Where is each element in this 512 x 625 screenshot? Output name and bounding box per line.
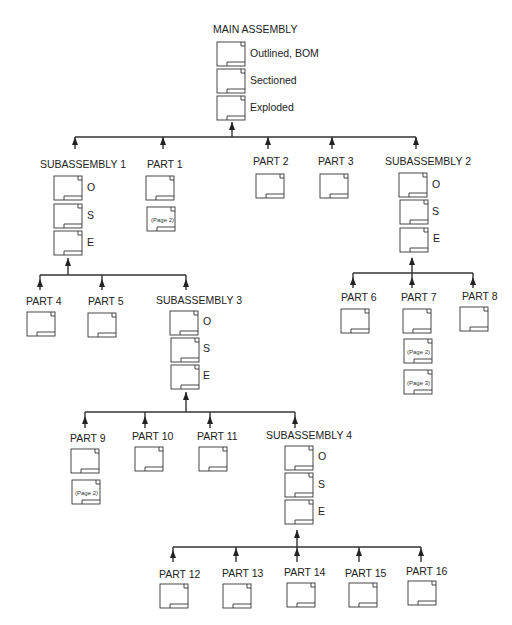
sheet-icon <box>171 365 199 389</box>
part-4-node: PART 4 <box>26 295 62 336</box>
view-s-label: S <box>87 209 94 221</box>
page-2-label: (Page 2) <box>151 217 174 223</box>
arrow-up-icon <box>329 137 335 145</box>
part-10-label: PART 10 <box>132 430 174 442</box>
part-14-label: PART 14 <box>284 566 326 578</box>
view-e-label: E <box>433 232 440 244</box>
arrow-up-icon <box>265 137 271 145</box>
part-10-node: PART 10 <box>132 430 174 471</box>
part-2-label: PART 2 <box>253 155 289 167</box>
part-8-node: PART 8 <box>460 290 498 331</box>
sheet-icon <box>171 338 199 362</box>
sheet-icon <box>341 309 369 333</box>
part-6-node: PART 6 <box>341 291 377 333</box>
part-16-label: PART 16 <box>406 565 448 577</box>
part-13-label: PART 13 <box>222 567 264 579</box>
view-e-label: E <box>318 505 325 517</box>
sheet-icon <box>460 307 488 331</box>
sheet-icon <box>170 311 198 335</box>
view-o-label: O <box>318 450 326 462</box>
part-12-label: PART 12 <box>159 568 201 580</box>
arrow-up-icon <box>160 137 166 145</box>
subassembly-4-node: SUBASSEMBLY 4 O S E <box>266 429 352 524</box>
subassembly-3-label: SUBASSEMBLY 3 <box>156 294 242 306</box>
drawing-tree-diagram: MAIN ASSEMBLY Outlined, BOM Sectioned Ex… <box>0 0 512 625</box>
sheet-icon <box>88 313 116 337</box>
sheet-icon <box>285 500 313 524</box>
part-14-node: PART 14 <box>284 566 326 607</box>
sheet-icon <box>54 231 82 255</box>
subassembly-1-label: SUBASSEMBLY 1 <box>40 158 126 170</box>
sheet-icon <box>400 228 428 252</box>
arrow-up-icon <box>413 137 419 145</box>
connector-level-1 <box>72 122 419 149</box>
view-o-label: O <box>432 178 440 190</box>
subassembly-3-node: SUBASSEMBLY 3 O S E <box>156 294 242 389</box>
sheet-icon <box>285 446 313 470</box>
subassembly-1-node: SUBASSEMBLY 1 O S E <box>40 158 126 255</box>
sheet-icon <box>256 174 284 198</box>
subassembly-2-node: SUBASSEMBLY 2 O S E <box>385 155 471 252</box>
sheet-icon <box>349 583 377 607</box>
part-7-node: PART 7 (Page 2) (Page 3) <box>401 291 437 394</box>
part-15-node: PART 15 <box>345 567 387 607</box>
sheet-icon <box>399 173 427 197</box>
view-o-label: O <box>87 181 95 193</box>
part-1-node: PART 1 (Page 2) <box>146 158 183 231</box>
part-7-label: PART 7 <box>401 291 437 303</box>
part-2-node: PART 2 <box>253 155 289 198</box>
part-11-label: PART 11 <box>197 430 238 442</box>
part-16-node: PART 16 <box>406 565 448 605</box>
part-15-label: PART 15 <box>345 567 387 579</box>
sheet-icon <box>400 200 428 224</box>
part-3-label: PART 3 <box>318 155 354 167</box>
sheet-exploded-icon <box>217 96 245 120</box>
sheet-icon <box>135 447 163 471</box>
part-3-node: PART 3 <box>318 155 354 198</box>
view-e-label: E <box>203 369 210 381</box>
arrow-up-icon <box>229 122 235 130</box>
part-13-node: PART 13 <box>222 567 264 608</box>
connector-subassembly-4 <box>170 530 424 562</box>
sheet-icon <box>287 583 315 607</box>
sheet-icon <box>146 176 174 200</box>
page-3-label: (Page 3) <box>407 380 430 386</box>
part-5-node: PART 5 <box>88 295 124 337</box>
view-s-label: S <box>318 478 325 490</box>
part-9-node: PART 9 (Page 2) <box>70 432 106 504</box>
sheet-icon <box>160 584 188 608</box>
sheet-icon <box>54 176 82 200</box>
view-exploded-label: Exploded <box>250 101 294 113</box>
view-sectioned-label: Sectioned <box>250 74 297 86</box>
part-6-label: PART 6 <box>341 291 377 303</box>
part-5-label: PART 5 <box>88 295 124 307</box>
sheet-icon <box>223 584 251 608</box>
main-assembly-label: MAIN ASSEMBLY <box>213 23 297 35</box>
part-12-node: PART 12 <box>159 568 201 608</box>
view-o-label: O <box>203 315 211 327</box>
sheet-icon <box>285 473 313 497</box>
arrow-up-icon <box>72 137 78 145</box>
main-assembly-node: MAIN ASSEMBLY Outlined, BOM Sectioned Ex… <box>213 23 319 120</box>
page-2-label: (Page 2) <box>75 490 98 496</box>
part-8-label: PART 8 <box>462 290 498 302</box>
view-s-label: S <box>432 205 439 217</box>
view-s-label: S <box>203 342 210 354</box>
sheet-sectioned-icon <box>217 69 245 93</box>
connector-subassembly-2 <box>350 257 476 288</box>
view-outlined-label: Outlined, BOM <box>250 47 319 59</box>
sheet-icon <box>54 204 82 228</box>
sheet-icon <box>199 447 227 471</box>
part-9-label: PART 9 <box>70 432 106 444</box>
sheet-icon <box>71 449 99 473</box>
view-e-label: E <box>87 236 94 248</box>
sheet-icon <box>403 309 431 333</box>
connector-subassembly-3 <box>82 392 298 428</box>
subassembly-2-label: SUBASSEMBLY 2 <box>385 155 471 167</box>
sheet-icon <box>408 581 436 605</box>
subassembly-4-label: SUBASSEMBLY 4 <box>266 429 352 441</box>
sheet-icon <box>320 174 348 198</box>
sheet-outlined-icon <box>217 42 245 66</box>
part-11-node: PART 11 <box>197 430 238 471</box>
page-2-label: (Page 2) <box>407 349 430 355</box>
